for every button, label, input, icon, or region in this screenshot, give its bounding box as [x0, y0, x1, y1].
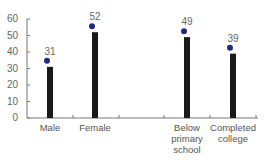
category-label: Completed college — [203, 122, 263, 144]
y-tick-label: 0 — [2, 112, 18, 123]
value-label: 52 — [83, 11, 107, 22]
value-label: 49 — [175, 16, 199, 27]
bar — [184, 37, 190, 118]
value-label: 31 — [38, 46, 62, 57]
y-tick-label: 40 — [2, 46, 18, 57]
dot-marker — [44, 58, 50, 64]
dot-marker — [181, 28, 187, 34]
bar — [230, 54, 236, 118]
category-label: Female — [65, 122, 125, 133]
value-label: 39 — [221, 33, 245, 44]
bar-chart: 0102030405060 MaleFemaleBelow primary sc… — [0, 0, 270, 163]
y-tick-label: 10 — [2, 96, 18, 107]
dot-marker — [227, 45, 233, 51]
y-tick-label: 20 — [2, 79, 18, 90]
y-tick-label: 50 — [2, 30, 18, 41]
bar — [92, 32, 98, 118]
y-tick-label: 30 — [2, 63, 18, 74]
y-tick-label: 60 — [2, 13, 18, 24]
dot-marker — [89, 23, 95, 29]
bar — [47, 67, 53, 118]
bars — [44, 23, 236, 118]
